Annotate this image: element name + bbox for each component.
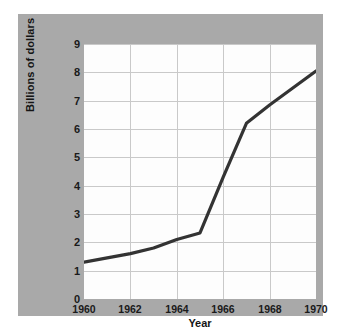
y-axis-tick-label: 2 <box>54 237 80 248</box>
x-axis-tick-label: 1970 <box>296 303 336 315</box>
plot-area <box>84 44 316 299</box>
y-axis-tick-label: 9 <box>54 39 80 50</box>
y-axis-tick-label: 3 <box>54 209 80 220</box>
series-line-chart <box>84 44 316 299</box>
y-axis-tick-label: 8 <box>54 67 80 78</box>
x-axis-tick-label: 1960 <box>64 303 104 315</box>
series-line-path <box>84 71 316 262</box>
y-axis-tick-label: 7 <box>54 96 80 107</box>
y-axis-tick-label: 5 <box>54 152 80 163</box>
x-axis-title: Year <box>84 317 316 329</box>
x-axis-tick-label: 1968 <box>250 303 290 315</box>
y-axis-tick-labels: 0123456789 <box>52 44 80 299</box>
y-axis-tick-label: 6 <box>54 124 80 135</box>
chart-figure-panel: 0123456789 Billions of dollars 196019621… <box>18 14 323 316</box>
x-axis-tick-labels: 196019621964196619681970 <box>84 303 316 317</box>
y-axis-tick-label: 4 <box>54 181 80 192</box>
x-axis-tick-label: 1964 <box>157 303 197 315</box>
y-axis-tick-label: 1 <box>54 266 80 277</box>
x-axis-tick-label: 1962 <box>110 303 150 315</box>
x-axis-tick-label: 1966 <box>203 303 243 315</box>
y-axis-title: Billions of dollars <box>24 18 36 112</box>
